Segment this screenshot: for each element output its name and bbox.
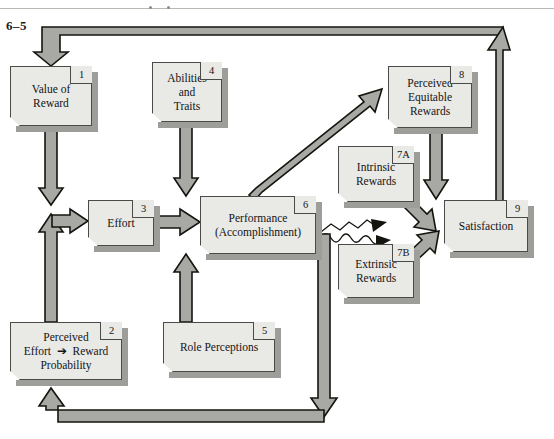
node-corner-cut (200, 245, 210, 254)
node-number: 7B (392, 244, 414, 262)
node-label: Value ofReward (28, 82, 75, 110)
node-corner-cut (444, 243, 454, 252)
node-number: 9 (506, 200, 528, 218)
node-value-of-reward[interactable]: Value ofReward 1 (10, 66, 92, 126)
node-perceived-equitable-rewards[interactable]: PerceivedEquitableRewards 8 (388, 66, 472, 128)
node-label: PerceivedEquitableRewards (403, 76, 456, 118)
node-corner-cut (388, 119, 398, 128)
node-role-perceptions[interactable]: Role Perceptions 5 (163, 322, 275, 372)
node-intrinsic-rewards[interactable]: IntrinsicRewards 7A (338, 146, 414, 202)
node-number: 4 (200, 62, 222, 80)
node-corner-cut (88, 237, 98, 246)
arrow-effort-to-performance (154, 209, 200, 235)
node-label: Role Perceptions (176, 340, 262, 354)
figure-canvas: 6–5 .bk{fill:#a8a8a4;stroke:#14140f;stro… (0, 0, 554, 439)
node-corner-cut (163, 363, 173, 372)
arrow-perceived-probability-to-effort (39, 214, 63, 322)
node-label: Effort (103, 216, 138, 230)
arrow-performance-to-intrinsic-rewards (321, 219, 387, 232)
node-number: 7A (392, 146, 414, 164)
node-label: Performance(Accomplishment) (211, 211, 305, 239)
node-label: Satisfaction (455, 219, 517, 233)
node-performance[interactable]: Performance(Accomplishment) 6 (200, 196, 316, 254)
node-number: 1 (70, 66, 92, 84)
node-corner-cut (338, 193, 348, 202)
arrow-equitable-rewards-to-satisfaction (424, 128, 448, 199)
node-satisfaction[interactable]: Satisfaction 9 (444, 200, 528, 252)
node-extrinsic-rewards[interactable]: ExtrinsicRewards 7B (338, 244, 414, 298)
node-number: 2 (100, 322, 122, 340)
node-number: 6 (294, 196, 316, 214)
node-perceived-effort-reward-probability[interactable]: PerceivedEffort ➔ RewardProbability 2 (10, 322, 122, 380)
node-corner-cut (10, 371, 20, 380)
node-label: PerceivedEffort ➔ RewardProbability (20, 330, 113, 372)
node-number: 5 (253, 322, 275, 340)
arrow-role-perceptions-to-performance (174, 254, 198, 322)
arrow-value-of-reward-to-effort (39, 126, 63, 205)
node-abilities-and-traits[interactable]: AbilitiesandTraits 4 (152, 62, 222, 122)
node-number: 3 (132, 200, 154, 218)
node-number: 8 (450, 66, 472, 84)
node-corner-cut (10, 117, 20, 126)
arrow-abilities-to-performance (174, 122, 198, 196)
node-effort[interactable]: Effort 3 (88, 200, 154, 246)
node-label: IntrinsicRewards (352, 160, 400, 188)
node-corner-cut (152, 113, 162, 122)
node-corner-cut (338, 289, 348, 298)
